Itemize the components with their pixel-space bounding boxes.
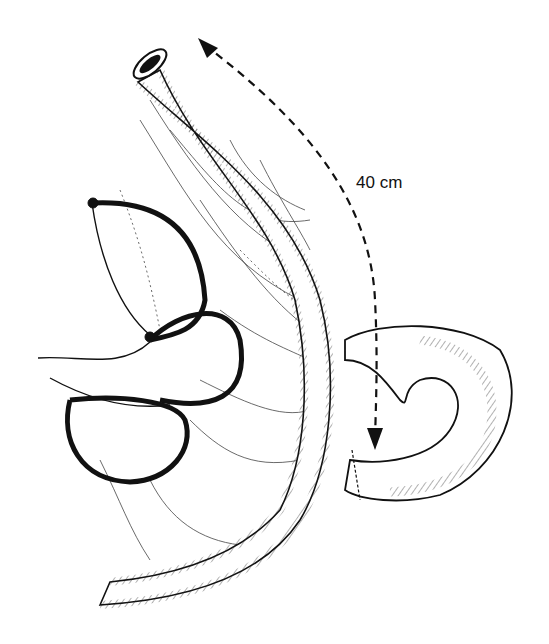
arrowhead-down-icon (367, 428, 383, 450)
pouches (38, 198, 242, 482)
surgical-illustration: 40 cm (0, 0, 549, 644)
length-label: 40 cm (356, 173, 402, 193)
mesentery (100, 100, 310, 560)
illustration-svg (0, 0, 549, 644)
roux-limb (100, 44, 330, 605)
anastomosis-loop (345, 326, 512, 500)
arrowhead-up-icon (198, 38, 218, 58)
